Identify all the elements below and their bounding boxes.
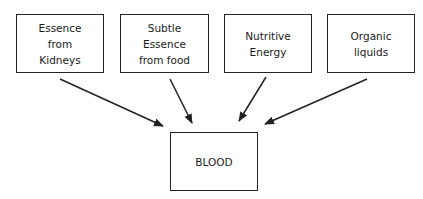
- box-essence-from-kidneys: Essence from Kidneys: [16, 14, 104, 73]
- box-subtle-essence-from-food: Subtle Essence from food: [120, 14, 209, 73]
- box-label: Nutritive Energy: [245, 28, 291, 60]
- box-nutritive-energy: Nutritive Energy: [224, 14, 312, 73]
- box-label: BLOOD: [195, 154, 232, 170]
- arrow-nutritive-to-blood: [239, 77, 266, 121]
- arrow-kidneys-to-blood: [60, 79, 163, 126]
- box-blood: BLOOD: [170, 132, 258, 191]
- box-label: Essence from Kidneys: [39, 20, 82, 68]
- box-label: Subtle Essence from food: [139, 20, 190, 68]
- box-organic-liquids: Organic liquids: [327, 14, 415, 73]
- arrow-food-to-blood: [170, 79, 192, 123]
- arrow-liquids-to-blood: [265, 79, 367, 124]
- box-label: Organic liquids: [351, 28, 392, 60]
